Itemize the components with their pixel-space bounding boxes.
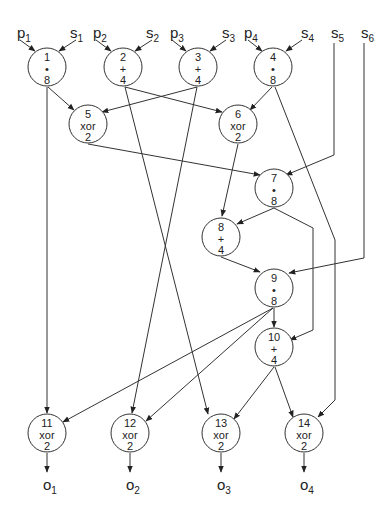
edge-8-9 [221,257,260,272]
edge-9-11 [63,308,273,422]
node-9: 9•8 [255,269,293,307]
edge-10-13 [234,367,274,419]
edge-s3-3 [210,40,226,51]
output-label-o2: o2 [126,476,140,496]
node-id: 9 [271,272,277,284]
node-width: 2 [301,440,307,452]
node-id: 1 [44,51,50,63]
edge-4-14 [275,87,335,417]
node-width: 4 [195,74,201,86]
edge-2-13 [125,87,208,414]
edge-10-14 [275,367,293,417]
output-label-o1: o1 [43,476,57,496]
edge-6-8 [222,144,238,216]
node-width: 8 [271,295,277,307]
edge-s5-7 [286,43,334,175]
node-width: 4 [120,74,126,86]
node-14: 14xor2 [285,414,323,452]
input-label-s1: s1 [70,24,84,44]
output-label-o3: o3 [217,476,231,496]
node-width: 8 [270,74,276,86]
edge-3-12 [132,87,197,413]
node-3: 3+4 [179,48,217,86]
edge-4-6 [250,87,272,110]
node-id: 5 [85,108,91,120]
node-width: 2 [85,131,91,143]
node-width: 8 [44,74,50,86]
node-1: 1•8 [28,48,66,86]
input-labels: p1s1p2s2p3s3p4s4s5s6 [17,24,375,44]
node-id: 13 [215,417,227,429]
input-label-p3: p3 [170,24,184,44]
input-label-p4: p4 [244,24,258,44]
node-id: 12 [124,417,136,429]
input-label-s6: s6 [361,24,375,44]
edge-s4-4 [286,40,302,51]
node-width: 2 [218,440,224,452]
node-id: 7 [271,172,277,184]
node-width: 2 [235,131,241,143]
input-label-s5: s5 [331,24,345,44]
node-11: 11xor2 [28,414,66,452]
node-7: 7•8 [255,169,293,207]
node-6: 6xor2 [219,105,257,143]
node-2: 2+4 [104,48,142,86]
node-width: 4 [271,354,277,366]
node-12: 12xor2 [111,414,149,452]
edge-s2-2 [135,40,152,51]
input-label-s2: s2 [146,24,160,44]
edge-2-6 [125,87,222,112]
node-id: 10 [268,331,280,343]
edges [20,40,364,472]
node-width: 4 [218,244,224,256]
node-id: 6 [235,108,241,120]
edge-3-5 [102,87,197,112]
node-id: 14 [298,417,310,429]
node-4: 4•8 [254,48,292,86]
node-width: 2 [44,440,50,452]
node-13: 13xor2 [202,414,240,452]
output-label-o4: o4 [300,476,314,496]
input-label-s4: s4 [301,24,315,44]
edge-9-12 [146,308,273,421]
node-id: 3 [195,51,201,63]
output-labels: o1o2o3o4 [43,476,314,496]
node-id: 11 [41,417,52,429]
input-label-p1: p1 [17,24,31,44]
dataflow-diagram: p1s1p2s2p3s3p4s4s5s6 o1o2o3o4 1•82+43+44… [0,0,391,516]
node-id: 4 [270,51,276,63]
edge-7-8 [237,208,274,224]
node-8: 8+4 [202,218,240,256]
node-id: 2 [120,51,126,63]
node-width: 8 [271,195,277,207]
edge-s1-1 [59,40,76,51]
node-10: 10+4 [255,328,293,366]
node-id: 8 [218,221,224,233]
node-width: 2 [127,440,133,452]
node-5: 5xor2 [69,105,107,143]
input-label-p2: p2 [93,24,107,44]
edge-1-5 [48,87,74,110]
